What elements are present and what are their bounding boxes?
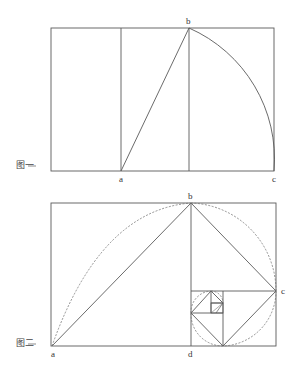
fig1-label-c: c <box>272 175 276 184</box>
fig2-diamond-2 <box>191 313 223 346</box>
golden-ratio-diagram <box>0 0 301 373</box>
fig1-outer-rect <box>51 28 274 171</box>
fig2-segment-bc <box>191 203 276 291</box>
fig2-outer-rect <box>51 203 276 346</box>
fig2-segment-ab <box>52 203 191 346</box>
fig1-segment-ab <box>121 28 189 171</box>
fig2-label-c: c <box>281 287 285 296</box>
figure-two-caption: 图二 <box>16 339 34 348</box>
figure-one <box>28 28 275 171</box>
figure-one-caption: 图一 <box>16 161 34 170</box>
fig1-arc-bc <box>189 28 275 171</box>
fig1-label-a: a <box>119 175 123 184</box>
fig2-label-d: d <box>188 350 193 359</box>
fig1-label-b: b <box>186 17 191 26</box>
fig2-label-a: a <box>51 350 55 359</box>
figure-two <box>28 203 276 346</box>
figure-two-dashed-arcs <box>52 203 276 346</box>
fig2-label-b: b <box>188 192 193 201</box>
